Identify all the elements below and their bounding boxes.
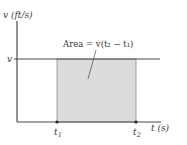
t2-point <box>134 120 137 123</box>
area-label: Area = v(t₂ − t₁) <box>62 39 133 49</box>
t1-point <box>55 120 58 123</box>
area-rectangle <box>57 59 136 122</box>
velocity-time-diagram: v (ft/s) v Area = v(t₂ − t₁) t1 t2 t (s) <box>0 0 187 145</box>
x-axis-label: t (s) <box>151 123 170 133</box>
v-level-label: v <box>7 54 12 64</box>
diagram-canvas: v (ft/s) v Area = v(t₂ − t₁) t1 t2 t (s) <box>0 0 187 145</box>
t2-label: t2 <box>133 127 141 139</box>
t1-label: t1 <box>54 127 62 139</box>
y-axis-label: v (ft/s) <box>3 10 33 20</box>
